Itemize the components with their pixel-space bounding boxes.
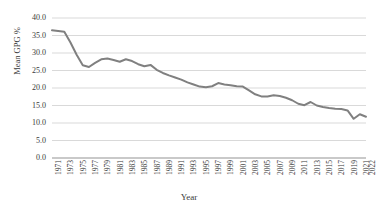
y-axis-tick-label: 30.0 bbox=[32, 49, 46, 57]
x-axis-tick-label: 1975 bbox=[80, 160, 88, 175]
x-axis-tick-label: 2013 bbox=[314, 160, 322, 175]
x-axis-tick-label: 2007 bbox=[277, 160, 285, 175]
x-axis-tick-label: 1971 bbox=[55, 160, 63, 175]
x-axis-tick-label: 1997 bbox=[215, 160, 223, 175]
y-axis-tick-label: 40.0 bbox=[32, 14, 46, 22]
x-axis-tick-label: 1995 bbox=[203, 160, 211, 175]
y-axis-tick-label: 5.0 bbox=[36, 137, 46, 145]
x-axis-tick-label: 2019 bbox=[351, 160, 359, 175]
x-axis-tick-label: 2001 bbox=[240, 160, 248, 175]
plot-area bbox=[52, 18, 366, 158]
x-axis-tick-label: 1989 bbox=[166, 160, 174, 175]
x-axis-tick-label: 1973 bbox=[67, 160, 75, 175]
y-axis-tick-label: 0.0 bbox=[36, 154, 46, 162]
y-axis-tick-label: 25.0 bbox=[32, 67, 46, 75]
y-axis-tick-label: 10.0 bbox=[32, 119, 46, 127]
y-axis-tick-labels: 40.035.030.025.020.015.010.05.00.0 bbox=[14, 0, 46, 210]
x-axis-tick-label: 1983 bbox=[129, 160, 137, 175]
y-axis-tick-label: 15.0 bbox=[32, 102, 46, 110]
x-axis-tick-label: 1977 bbox=[92, 160, 100, 175]
x-axis-tick-label: 1991 bbox=[178, 160, 186, 175]
x-axis-tick-label: 2017 bbox=[338, 160, 346, 175]
x-axis-tick-label: 2011 bbox=[301, 160, 309, 175]
x-axis-tick-label: 2003 bbox=[252, 160, 260, 175]
x-axis-title: Year bbox=[0, 192, 378, 202]
x-axis-tick-labels: 1971197319751977197919811983198519871989… bbox=[52, 160, 366, 194]
gridlines bbox=[52, 18, 366, 158]
x-axis-tick-label: 2015 bbox=[326, 160, 334, 175]
x-axis-tick-label: 1993 bbox=[190, 160, 198, 175]
x-axis-tick-label: 2009 bbox=[289, 160, 297, 175]
x-axis-tick-label: 2005 bbox=[264, 160, 272, 175]
y-axis-tick-label: 20.0 bbox=[32, 84, 46, 92]
x-axis-tick-label: 2022 bbox=[369, 160, 377, 175]
x-axis-tick-label: 1999 bbox=[227, 160, 235, 175]
x-axis-tick-label: 1981 bbox=[117, 160, 125, 175]
x-axis-tick-label: 1987 bbox=[154, 160, 162, 175]
x-axis-tick-label: 1985 bbox=[141, 160, 149, 175]
plot-svg bbox=[52, 18, 366, 158]
x-axis-tick-label: 1979 bbox=[104, 160, 112, 175]
y-axis-tick-label: 35.0 bbox=[32, 32, 46, 40]
gender-pay-gap-line-chart: Mean GPG % 40.035.030.025.020.015.010.05… bbox=[0, 0, 378, 210]
